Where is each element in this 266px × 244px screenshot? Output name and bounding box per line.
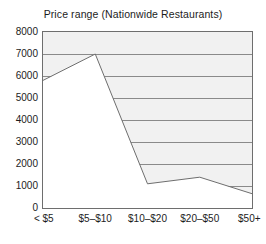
x-tick-label: $50+ xyxy=(238,213,261,225)
chart-plot-svg xyxy=(43,32,252,208)
x-tick-label: $20–$50 xyxy=(180,213,219,225)
y-axis: 010002000300040005000600070008000 xyxy=(0,31,38,209)
x-axis: < $5$5–$10$10–$20$20–$50$50+ xyxy=(42,213,253,231)
y-tick-label: 2000 xyxy=(0,159,38,169)
x-tick-label: $10–$20 xyxy=(128,213,167,225)
area-fill xyxy=(43,32,252,194)
x-tick-label: $5–$10 xyxy=(79,213,112,225)
y-tick-label: 5000 xyxy=(0,93,38,103)
y-tick-label: 6000 xyxy=(0,71,38,81)
price-range-chart: Price range (Nationwide Restaurants) 010… xyxy=(0,0,266,244)
y-tick-label: 8000 xyxy=(0,27,38,37)
y-tick-label: 3000 xyxy=(0,137,38,147)
plot-area xyxy=(42,31,253,209)
y-tick-label: 1000 xyxy=(0,181,38,191)
x-tick-label: < $5 xyxy=(34,213,54,225)
chart-title: Price range (Nationwide Restaurants) xyxy=(0,8,266,20)
y-tick-label: 4000 xyxy=(0,115,38,125)
y-tick-label: 7000 xyxy=(0,49,38,59)
y-tick-label: 0 xyxy=(0,203,38,213)
